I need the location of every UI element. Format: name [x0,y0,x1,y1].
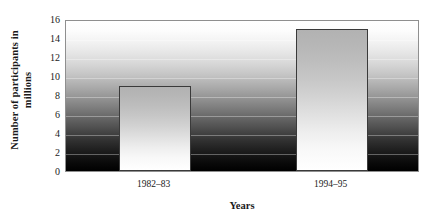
bar [119,86,191,172]
y-tick-label: 8 [38,91,60,101]
y-tick-label: 16 [38,15,60,25]
x-tick-label: 1994–95 [314,178,347,190]
x-axis-title: Years [65,200,419,211]
plot-area [65,20,419,172]
y-tick-label: 2 [38,148,60,158]
bar [296,29,368,172]
x-axis-tick-labels: 1982–831994–95 [65,178,419,192]
y-axis-title-line2: millions [21,30,34,149]
y-tick-label: 4 [38,129,60,139]
y-tick-label: 6 [38,110,60,120]
y-tick-label: 10 [38,72,60,82]
bar-chart: Number of participants in millions 16141… [0,0,427,223]
y-axis-title-line1: Number of participants in [8,30,21,149]
x-tick-label: 1982–83 [137,178,170,190]
y-tick-label: 0 [38,167,60,177]
y-tick-label: 14 [38,34,60,44]
y-axis-tick-labels: 1614121086420 [38,20,60,172]
y-axis-title: Number of participants in millions [0,0,42,180]
y-tick-label: 12 [38,53,60,63]
